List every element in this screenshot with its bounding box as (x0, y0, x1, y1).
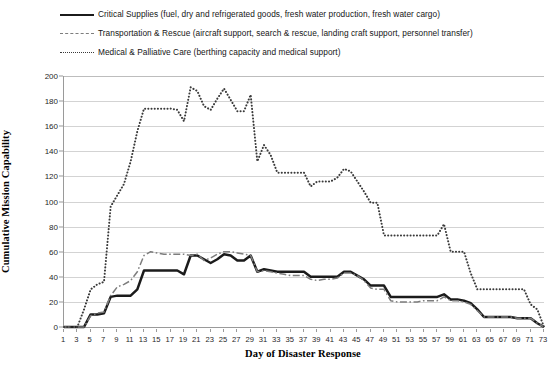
x-tick-label: 37 (299, 335, 307, 344)
x-tick-label: 71 (525, 335, 533, 344)
x-tick-label: 23 (205, 335, 213, 344)
x-tick-mark (290, 329, 291, 332)
x-tick-label: 57 (432, 335, 440, 344)
x-tick-label: 51 (392, 335, 400, 344)
x-tick-label: 15 (152, 335, 160, 344)
plot-area (63, 76, 544, 328)
x-tick-mark (343, 329, 344, 332)
x-tick-mark (316, 329, 317, 332)
x-tick-label: 45 (352, 335, 360, 344)
x-tick-mark (63, 329, 64, 332)
y-tick-label: 60 (49, 247, 58, 256)
x-tick-mark (76, 329, 77, 332)
x-tick-mark (396, 329, 397, 332)
x-tick-label: 61 (459, 335, 467, 344)
x-tick-mark (330, 329, 331, 332)
x-tick-mark (410, 329, 411, 332)
legend-label-medical-palliative-care: Medical & Palliative Care (berthing capa… (98, 47, 341, 57)
chart-legend: Critical Supplies (fuel, dry and refrige… (60, 4, 555, 62)
x-axis-ticks: 1357911131517192123252729313335373941434… (63, 329, 543, 345)
y-axis-ticks: 020406080100120140160180200 (0, 0, 63, 377)
x-tick-mark (170, 329, 171, 332)
x-tick-label: 47 (365, 335, 373, 344)
x-tick-mark (116, 329, 117, 332)
x-tick-label: 9 (114, 335, 118, 344)
x-tick-mark (276, 329, 277, 332)
x-tick-mark (450, 329, 451, 332)
x-tick-label: 59 (445, 335, 453, 344)
x-tick-label: 1 (61, 335, 65, 344)
x-tick-mark (143, 329, 144, 332)
x-tick-label: 29 (245, 335, 253, 344)
x-tick-label: 13 (139, 335, 147, 344)
x-tick-label: 33 (272, 335, 280, 344)
legend-swatch-solid-line-icon (60, 8, 94, 20)
legend-swatch-dotted-line-icon (60, 46, 94, 58)
legend-item-medical-palliative-care: Medical & Palliative Care (berthing capa… (60, 42, 555, 61)
legend-label-critical-supplies: Critical Supplies (fuel, dry and refrige… (98, 9, 440, 19)
legend-item-transportation-rescue: Transportation & Rescue (aircraft suppor… (60, 23, 555, 42)
y-tick-label: 140 (45, 147, 58, 156)
y-tick-label: 80 (49, 222, 58, 231)
x-tick-mark (183, 329, 184, 332)
y-tick-label: 40 (49, 272, 58, 281)
x-tick-mark (490, 329, 491, 332)
y-tick-label: 0 (54, 323, 58, 332)
x-tick-mark (543, 329, 544, 332)
x-tick-mark (130, 329, 131, 332)
x-tick-mark (463, 329, 464, 332)
x-tick-mark (103, 329, 104, 332)
legend-item-critical-supplies: Critical Supplies (fuel, dry and refrige… (60, 4, 555, 23)
x-tick-label: 43 (339, 335, 347, 344)
x-tick-label: 73 (539, 335, 547, 344)
x-tick-label: 17 (165, 335, 173, 344)
y-tick-label: 120 (45, 172, 58, 181)
x-tick-label: 7 (101, 335, 105, 344)
x-tick-label: 25 (219, 335, 227, 344)
y-tick-label: 160 (45, 122, 58, 131)
series-line-critical-supplies (64, 254, 544, 327)
legend-swatch-dashdot-line-icon (60, 27, 94, 39)
chart-figure: Critical Supplies (fuel, dry and refrige… (0, 0, 558, 377)
x-tick-label: 69 (512, 335, 520, 344)
x-tick-mark (210, 329, 211, 332)
x-tick-mark (90, 329, 91, 332)
x-tick-mark (383, 329, 384, 332)
x-tick-mark (196, 329, 197, 332)
y-tick-label: 20 (49, 297, 58, 306)
x-tick-mark (356, 329, 357, 332)
x-tick-mark (503, 329, 504, 332)
x-tick-label: 41 (325, 335, 333, 344)
x-tick-mark (250, 329, 251, 332)
legend-label-transportation-rescue: Transportation & Rescue (aircraft suppor… (98, 28, 473, 38)
x-tick-label: 53 (405, 335, 413, 344)
x-tick-mark (223, 329, 224, 332)
x-tick-label: 27 (232, 335, 240, 344)
y-tick-label: 200 (45, 72, 58, 81)
x-tick-label: 21 (192, 335, 200, 344)
x-tick-label: 35 (285, 335, 293, 344)
x-tick-mark (436, 329, 437, 332)
x-tick-label: 3 (74, 335, 78, 344)
x-tick-label: 55 (419, 335, 427, 344)
y-tick-label: 180 (45, 97, 58, 106)
x-tick-mark (156, 329, 157, 332)
x-tick-mark (530, 329, 531, 332)
x-tick-mark (476, 329, 477, 332)
x-tick-label: 31 (259, 335, 267, 344)
x-tick-label: 39 (312, 335, 320, 344)
x-tick-label: 11 (126, 335, 134, 344)
x-axis-title: Day of Disaster Response (63, 348, 543, 359)
x-tick-label: 63 (472, 335, 480, 344)
y-tick-label: 100 (45, 197, 58, 206)
x-tick-mark (370, 329, 371, 332)
x-tick-mark (516, 329, 517, 332)
series-lines (64, 76, 544, 327)
x-tick-label: 65 (485, 335, 493, 344)
x-tick-mark (236, 329, 237, 332)
x-tick-label: 19 (179, 335, 187, 344)
x-tick-mark (303, 329, 304, 332)
x-tick-mark (263, 329, 264, 332)
x-tick-label: 67 (499, 335, 507, 344)
x-tick-label: 5 (88, 335, 92, 344)
